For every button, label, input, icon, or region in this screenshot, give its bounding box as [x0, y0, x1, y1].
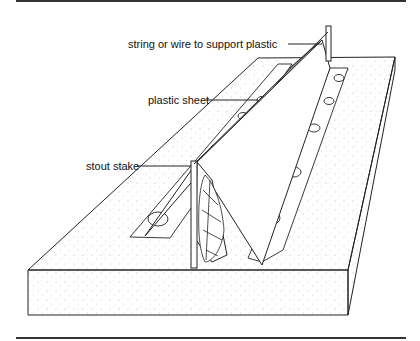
label-plastic-sheet: plastic sheet [148, 94, 209, 106]
soil-front-face [28, 270, 348, 315]
label-string-or-wire: string or wire to support plastic [128, 38, 277, 50]
label-stout-stake: stout stake [86, 160, 139, 172]
front-stout-stake [191, 161, 197, 268]
back-stake [326, 26, 331, 61]
row-cover-illustration [0, 0, 420, 341]
